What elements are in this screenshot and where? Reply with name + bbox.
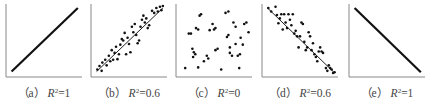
panel-label: （a） [18,87,48,99]
data-point [317,50,320,53]
data-point [105,64,108,67]
data-point [136,42,139,45]
data-point [131,25,134,28]
r-symbol: R [47,87,55,99]
r-squared-figure: （a） R2=1（b） R2=0.6（c） R2=0（d） R2=0.6（e） … [0,0,428,109]
data-point [214,49,217,52]
data-point [229,52,232,55]
axes [262,4,338,77]
data-point [112,59,115,62]
data-point [315,56,318,59]
data-point [125,53,128,56]
r-symbol: R [390,87,398,99]
data-point [206,54,209,57]
data-point [231,54,234,57]
data-point [328,64,331,67]
data-point [155,7,158,10]
data-point [192,56,195,59]
data-point [284,21,287,24]
panel-c: （c） R2=0 [176,4,252,99]
data-point [195,27,198,30]
data-point [214,27,217,30]
panel-caption: （a） R2=1 [18,87,71,99]
data-point [234,43,237,46]
data-point [220,68,223,71]
data-point [236,54,239,57]
data-point [312,42,315,45]
data-point [118,53,121,56]
data-point [310,49,313,52]
data-point [98,65,101,68]
data-point [316,60,319,63]
panel-b: （b） R2=0.6 [91,4,167,99]
data-point [229,46,232,49]
panel-label: （d） [269,87,300,99]
data-point [128,43,131,46]
data-point [148,24,151,27]
data-point [129,51,132,54]
data-point [247,31,250,34]
data-point [227,10,230,13]
data-point [162,5,165,8]
data-point [159,5,162,8]
data-point [325,67,328,70]
data-point [243,23,246,26]
data-point [326,70,329,73]
data-point [313,53,316,56]
r2-value: =0.6 [310,87,331,99]
data-point [133,23,136,26]
r-symbol: R [217,87,225,99]
data-point [108,54,111,57]
data-point [146,27,149,30]
r2-value: =1 [58,87,70,99]
r-symbol: R [299,87,307,99]
data-point [245,21,248,24]
data-point [191,47,194,50]
data-point [138,39,141,42]
data-point [277,22,280,25]
data-point [302,23,305,26]
data-point [144,21,147,24]
data-point [211,23,214,26]
data-point [322,52,325,55]
data-point [287,13,290,16]
data-point [145,17,148,20]
data-point [224,12,227,15]
panel-a: （a） R2=1 [6,4,82,99]
data-point [100,70,103,73]
data-point [333,71,336,74]
data-point [139,25,142,28]
data-point [122,39,125,42]
r2-value: =0.6 [139,87,160,99]
data-point [234,25,237,28]
data-point [135,34,138,37]
data-point [293,32,296,35]
data-point [281,28,284,31]
data-point [292,13,295,16]
panel-label: （e） [361,87,391,99]
data-point [197,28,200,31]
data-point [276,14,279,17]
data-point [160,9,163,12]
data-point [319,46,322,49]
data-point [238,67,241,70]
data-point [109,60,112,63]
panel-caption: （d） R2=0.6 [269,87,331,99]
data-point [151,10,154,13]
data-point [208,29,211,32]
data-point [307,31,310,34]
panel-caption: （c） R2=0 [188,87,241,99]
data-point [207,57,210,60]
data-point [283,13,286,16]
r-symbol: R [128,87,136,99]
data-point [119,43,122,46]
panel-e: （e） R2=1 [349,4,425,99]
perfect-fit-line [12,8,78,71]
data-point [110,49,113,52]
perfect-fit-line [355,8,421,72]
data-point [303,41,306,44]
data-point [141,19,144,22]
r2-value: =1 [401,87,413,99]
data-point [123,32,126,35]
regression-line [97,8,163,71]
